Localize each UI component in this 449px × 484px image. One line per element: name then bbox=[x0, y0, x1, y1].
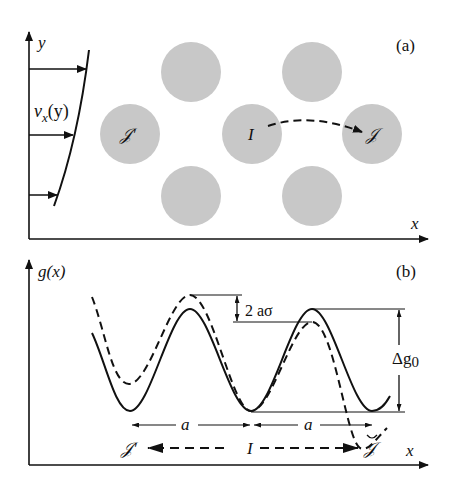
particle-top-left bbox=[161, 42, 221, 102]
potential-unstressed-curve bbox=[92, 309, 390, 411]
potential-stressed-curve bbox=[92, 295, 387, 449]
forward-label-breve bbox=[367, 435, 377, 438]
panel-tag: (a) bbox=[396, 36, 415, 55]
g-axis-label: g(x) bbox=[38, 262, 66, 281]
spacing-label-left: a bbox=[181, 415, 190, 434]
particle-top-right bbox=[282, 42, 342, 102]
spacing-label-right: a bbox=[304, 415, 313, 434]
barrier-label: Δg0 bbox=[392, 349, 419, 370]
forward-label: 𝒥 bbox=[363, 439, 382, 458]
particle-bottom-left bbox=[161, 166, 221, 226]
y-axis-label: y bbox=[36, 33, 46, 52]
velocity-profile-curve bbox=[54, 50, 89, 206]
velocity-label: vx(y) bbox=[34, 101, 69, 125]
diagram-canvas: y x (a) vx(y) 𝒥' I 𝒥 g(x) x (b) bbox=[0, 0, 449, 484]
back-site-label: 𝒥' bbox=[119, 125, 138, 144]
stress-shift-label: 2 aσ bbox=[245, 302, 273, 319]
backward-label: 𝒥' bbox=[120, 439, 139, 458]
x-axis-label-b: x bbox=[405, 441, 414, 460]
x-axis-label: x bbox=[410, 214, 419, 233]
panel-b: g(x) x (b) 2 aσ Δg0 a a 𝒥' bbox=[29, 260, 428, 465]
panel-tag-b: (b) bbox=[396, 262, 416, 281]
initial-label: I bbox=[246, 439, 254, 458]
panel-a: y x (a) vx(y) 𝒥' I 𝒥 bbox=[29, 32, 428, 239]
particle-bottom-right bbox=[282, 166, 342, 226]
